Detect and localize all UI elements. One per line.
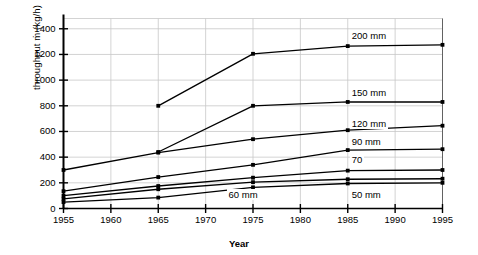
x-axis-tick-label: 1995: [421, 214, 465, 225]
y-axis-tick-label: 600: [16, 125, 56, 136]
x-axis-tick-label: 1985: [326, 214, 370, 225]
x-axis-tick-label: 1990: [373, 214, 417, 225]
series-label-50-mm: 50 mm: [350, 189, 383, 200]
data-point-marker: [156, 175, 160, 179]
data-point-marker: [156, 104, 160, 108]
data-point-marker: [441, 177, 445, 181]
x-axis-tick-label: 1970: [184, 214, 228, 225]
series-label-200-mm: 200 mm: [350, 30, 388, 41]
x-axis-tick-label: 1965: [136, 214, 180, 225]
data-point-marker: [156, 196, 160, 200]
x-axis-tick-label: 1975: [231, 214, 275, 225]
data-point-marker: [251, 52, 255, 56]
data-point-marker: [346, 148, 350, 152]
data-point-marker: [62, 168, 66, 172]
y-axis-tick-label: 200: [16, 177, 56, 188]
x-axis-tick-label: 1955: [42, 214, 86, 225]
data-point-marker: [346, 169, 350, 173]
data-point-marker: [251, 104, 255, 108]
data-point-marker: [441, 100, 445, 104]
y-axis-tick-label: 1200: [16, 48, 56, 59]
y-axis-tick-label: 400: [16, 151, 56, 162]
series-label-90-mm: 90 mm: [350, 136, 383, 147]
data-point-marker: [346, 182, 350, 186]
data-point-marker: [251, 163, 255, 167]
x-axis-title: Year: [0, 238, 478, 249]
data-point-marker: [62, 200, 66, 204]
data-point-marker: [156, 187, 160, 191]
data-point-marker: [346, 100, 350, 104]
series-label-70: 70: [350, 154, 365, 165]
x-axis-tick-label: 1960: [89, 214, 133, 225]
data-point-marker: [251, 137, 255, 141]
chart-figure: throughput ṁ (kg/h) Year 200 mm150 mm120…: [0, 0, 478, 255]
y-axis-tick-label: 1400: [16, 23, 56, 34]
series-label-150-mm: 150 mm: [350, 87, 388, 98]
series-label-60-mm: 60 mm: [227, 189, 260, 200]
data-point-marker: [251, 180, 255, 184]
data-point-marker: [441, 124, 445, 128]
data-point-marker: [441, 43, 445, 47]
y-axis-tick-label: 0: [16, 203, 56, 214]
data-point-marker: [441, 168, 445, 172]
data-point-marker: [156, 151, 160, 155]
x-axis-tick-label: 1980: [278, 214, 322, 225]
data-point-marker: [346, 128, 350, 132]
data-point-marker: [441, 181, 445, 185]
series-label-120-mm: 120 mm: [350, 118, 388, 129]
data-point-marker: [62, 189, 66, 193]
data-point-marker: [251, 176, 255, 180]
data-point-marker: [346, 177, 350, 181]
data-point-marker: [346, 44, 350, 48]
y-axis-tick-label: 1000: [16, 74, 56, 85]
data-point-marker: [441, 147, 445, 151]
y-axis-tick-label: 800: [16, 100, 56, 111]
